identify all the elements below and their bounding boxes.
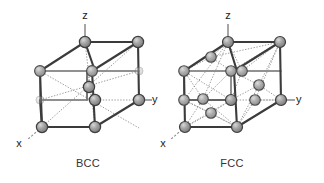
- fcc-atom-face-back: [237, 66, 248, 77]
- fcc-atom-corner-back-center: [226, 66, 237, 77]
- fcc-z-axis-label: z: [225, 9, 231, 21]
- bcc-atom-corner-top-right: [132, 36, 143, 47]
- bcc-atom-corner-bottom-left-x: [36, 121, 47, 132]
- fcc-atom-corner-bottom-left-x: [180, 122, 191, 133]
- fcc-atom-corner-right-y: [276, 95, 287, 106]
- fcc-atom-corner-top-right: [275, 37, 286, 48]
- fcc-atom-corner-bottom-front: [232, 122, 243, 133]
- bcc-atom-corner-bottom-front: [89, 121, 100, 132]
- fcc-atom-face-left: [198, 94, 209, 105]
- fcc-atom-face-top: [206, 52, 217, 63]
- fcc-x-axis-label: x: [160, 137, 166, 149]
- bcc-atom-corner-back-center: [87, 66, 98, 77]
- fcc-atom-face-bottom: [206, 108, 217, 119]
- bcc-caption: BCC: [76, 157, 100, 169]
- fcc-atom-face-right: [254, 80, 265, 91]
- bcc-atom-corner-back-left: [35, 66, 46, 77]
- bcc-atom-corner-back-bottom-left-hidden: [36, 96, 44, 104]
- bcc-atom-corner-back-right-hidden: [135, 67, 143, 75]
- figure-background: [0, 0, 324, 183]
- bcc-atom-corner-front-top: [89, 94, 100, 105]
- bcc-y-axis-label: y: [152, 93, 158, 105]
- bcc-atom-body-center: [83, 81, 94, 92]
- fcc-atom-corner-back-left: [179, 66, 190, 77]
- fcc-caption: FCC: [220, 157, 244, 169]
- fcc-y-axis-label: y: [296, 93, 302, 105]
- fcc-atom-corner-front-top: [226, 95, 237, 106]
- bcc-atom-corner-right-y: [133, 94, 144, 105]
- bcc-z-axis-label: z: [82, 9, 88, 21]
- fcc-atom-face-right-inner: [250, 95, 261, 106]
- bcc-atom-corner-top-back: [79, 36, 90, 47]
- fcc-atom-corner-top-back: [223, 37, 234, 48]
- fcc-atom-corner-back-bottom-left: [179, 95, 190, 106]
- crystal-lattice-figure: z y x BCC: [0, 0, 324, 183]
- bcc-x-axis-label: x: [16, 137, 22, 149]
- fcc-edge-right-vertical: [280, 42, 281, 100]
